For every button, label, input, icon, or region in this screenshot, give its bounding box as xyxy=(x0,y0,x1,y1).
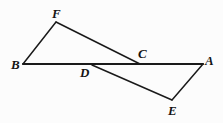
vertex-label-e: E xyxy=(168,104,177,117)
segment-BF xyxy=(23,22,56,64)
geometry-figure: FBCADE xyxy=(0,0,223,123)
vertex-label-f: F xyxy=(52,7,61,20)
segment-EA xyxy=(172,64,203,100)
vertex-label-d: D xyxy=(80,66,89,79)
figure-canvas xyxy=(0,0,223,123)
segment-DE xyxy=(92,65,172,100)
vertex-label-b: B xyxy=(11,58,20,71)
segments-group xyxy=(23,22,203,100)
segment-FC xyxy=(56,22,140,64)
vertex-label-c: C xyxy=(138,47,147,60)
vertex-label-a: A xyxy=(205,54,214,67)
